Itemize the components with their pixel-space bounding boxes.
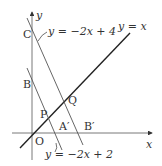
x-axis-label: x bbox=[146, 138, 153, 151]
label-line-y-eq-x: y = x bbox=[117, 20, 147, 33]
point-b-prime-label: B′ bbox=[84, 120, 95, 133]
y-axis-label: y bbox=[35, 9, 43, 22]
point-c-label: C bbox=[23, 28, 31, 41]
label-line-b: y = −2x + 2 bbox=[44, 148, 113, 161]
point-b-label: B bbox=[23, 78, 31, 91]
point-p-label: P bbox=[40, 108, 48, 121]
label-line-c: y = −2x + 4 bbox=[47, 25, 116, 38]
origin-label: O bbox=[35, 135, 44, 148]
coordinate-diagram: y x O C B P Q A′ B′ y = x y = −2x + 4 y … bbox=[0, 0, 162, 166]
point-a-prime-label: A′ bbox=[58, 120, 70, 133]
point-q-label: Q bbox=[68, 94, 77, 107]
leader-c bbox=[38, 32, 47, 41]
